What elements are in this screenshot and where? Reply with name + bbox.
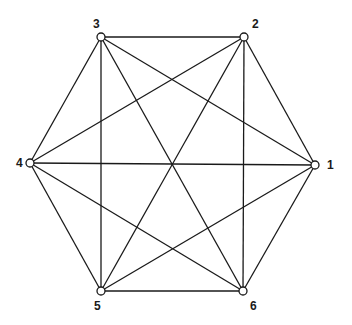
node-4: [26, 159, 34, 167]
node-label-2: 2: [252, 17, 259, 31]
node-label-3: 3: [93, 17, 100, 31]
node-6: [239, 287, 247, 295]
node-label-5: 5: [94, 299, 101, 313]
node-label-4: 4: [16, 156, 23, 170]
edge-4-5: [30, 163, 101, 291]
node-label-1: 1: [327, 158, 334, 172]
edge-1-6: [243, 165, 315, 291]
edge-2-6: [243, 37, 244, 291]
node-3: [97, 33, 105, 41]
node-1: [311, 161, 319, 169]
edge-2-4: [30, 37, 244, 163]
edge-4-6: [30, 163, 243, 291]
edges: [30, 37, 315, 291]
edge-1-2: [244, 37, 315, 165]
node-2: [240, 33, 248, 41]
k6-graph: 123456: [0, 0, 352, 325]
node-5: [97, 287, 105, 295]
node-label-6: 6: [250, 299, 257, 313]
edge-3-4: [30, 37, 101, 163]
